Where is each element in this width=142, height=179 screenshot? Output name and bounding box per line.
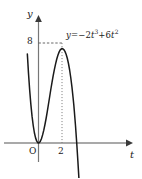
origin-label: O	[29, 147, 36, 156]
figure-canvas	[0, 0, 142, 178]
equation-term2-sign: +	[98, 30, 105, 40]
t-axis-arrowhead	[126, 140, 133, 147]
t-axis	[4, 140, 133, 147]
y-tick-label-8: 8	[27, 37, 33, 46]
y-axis-arrowhead	[35, 15, 42, 22]
equation-term2-exponent: 2	[115, 28, 119, 35]
y-axis-label: y	[27, 9, 33, 19]
t-axis-label: t	[130, 150, 134, 160]
x-tick-label-2: 2	[58, 147, 64, 156]
curve-equation-label: y=−2t3+6t2	[66, 31, 119, 40]
cubic-curve	[27, 49, 80, 179]
cubic-curve-figure: y t O 8 2 y=−2t3+6t2	[0, 0, 142, 178]
